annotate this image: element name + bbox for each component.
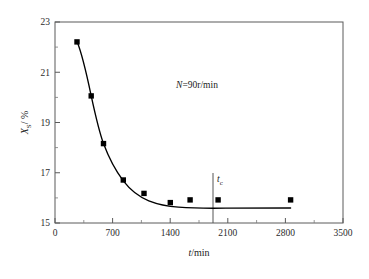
y-tick-label: 17 [41,168,51,178]
y-tick-label: 23 [41,17,51,27]
data-point [288,197,293,202]
data-point [74,39,79,44]
data-point [187,197,192,202]
scatter-plot: 15 17 19 21 23 0 700 1400 2100 2800 3500… [0,0,369,279]
x-tick-label: 700 [105,228,120,238]
condition-annotation: N=90r/min [175,80,218,90]
x-tick-label: 0 [53,228,58,238]
y-tick-label: 19 [41,118,51,128]
y-tick-label: 21 [41,68,51,78]
x-tick-label: 1400 [161,228,180,238]
data-point [89,93,94,98]
critical-time-subscript: c [220,179,223,187]
data-point [168,200,173,205]
data-point [215,197,220,202]
data-point [101,141,106,146]
y-axis-unit: / % [19,111,30,125]
chart-figure: 15 17 19 21 23 0 700 1400 2100 2800 3500… [0,0,369,279]
x-tick-label: 2100 [218,228,237,238]
x-tick-label: 3500 [334,228,353,238]
x-axis-unit: /min [191,247,209,258]
y-tick-label: 15 [41,218,51,228]
x-axis-title: t/min [188,247,209,258]
condition-value: =90r/min [182,80,218,90]
x-tick-label: 2800 [276,228,295,238]
data-point [141,191,146,196]
data-point [121,177,126,182]
